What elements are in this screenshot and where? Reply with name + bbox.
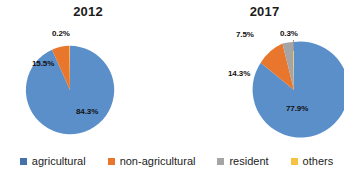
pie-2012-svg: [24, 44, 116, 136]
pie-2012-label-others: 0.2%: [52, 29, 70, 38]
legend-item-others[interactable]: others: [291, 156, 334, 167]
legend-label-agricultural: agricultural: [32, 156, 86, 167]
panel-title-2017: 2017: [176, 4, 353, 19]
legend-item-resident[interactable]: resident: [217, 156, 268, 167]
pie-2012: [24, 44, 116, 136]
legend-swatch-icon-non-agricultural: [108, 158, 115, 165]
pie-2017: [244, 40, 344, 140]
legend-item-agricultural[interactable]: agricultural: [20, 156, 86, 167]
legend-swatch-icon-resident: [217, 158, 224, 165]
chart-panel-2012: 2012 0.2% 15.5% 84.3%: [0, 0, 176, 146]
chart-panel-2017: 2017 7.5% 0.3% 14.3% 77.9%: [176, 0, 353, 146]
legend-label-non-agricultural: non-agricultural: [120, 156, 196, 167]
pie-2012-label-non-agricultural: 15.5%: [32, 59, 54, 68]
pie-2017-label-resident: 7.5%: [236, 30, 254, 39]
pie-2017-label-non-agricultural: 14.3%: [228, 69, 250, 78]
pie-2017-leader-line-others: [293, 40, 294, 51]
chart-legend: agricultural non-agricultural resident o…: [0, 149, 353, 173]
legend-swatch-icon-others: [291, 158, 298, 165]
legend-label-others: others: [303, 156, 334, 167]
pie-2017-svg: [244, 40, 344, 140]
pie-2017-label-others: 0.3%: [280, 29, 298, 38]
legend-swatch-icon-agricultural: [20, 158, 27, 165]
legend-label-resident: resident: [229, 156, 268, 167]
pie-chart-figure: 2012 0.2% 15.5% 84.3% 2017: [0, 0, 353, 146]
pie-2012-label-agricultural: 84.3%: [76, 107, 98, 116]
panel-title-2012: 2012: [0, 4, 176, 19]
pie-2017-label-agricultural: 77.9%: [286, 104, 308, 113]
legend-item-non-agricultural[interactable]: non-agricultural: [108, 156, 196, 167]
